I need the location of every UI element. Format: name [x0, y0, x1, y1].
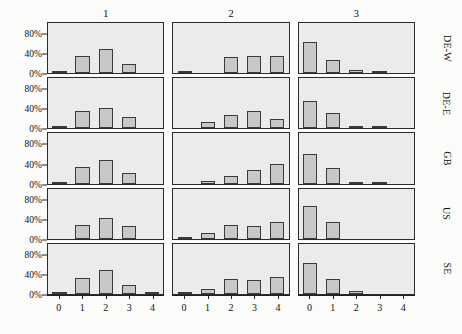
- chart-root: 0%40%80%0%40%80%0%40%80%0%40%80%0%40%80%…: [0, 0, 462, 334]
- bar: [303, 154, 317, 183]
- y-tick-label: 80%: [25, 195, 42, 205]
- bar: [270, 222, 284, 239]
- bar: [303, 263, 317, 294]
- bar: [247, 226, 261, 239]
- x-tick-mark: [309, 295, 310, 299]
- bar: [122, 285, 136, 294]
- bar: [270, 277, 284, 294]
- bar: [247, 56, 261, 74]
- x-tick-label: 3: [377, 302, 382, 313]
- plot-area: [299, 78, 414, 128]
- panel-grid: [47, 22, 415, 295]
- row-strip-text: GB: [441, 151, 452, 165]
- y-tick-label: 80%: [25, 84, 42, 94]
- x-tick-label: 3: [127, 302, 132, 313]
- bar: [122, 173, 136, 184]
- row-strip-label-US: US: [432, 188, 462, 240]
- bar: [247, 170, 261, 184]
- y-tick-label: 0%: [29, 69, 42, 79]
- x-tick-label: 2: [103, 302, 108, 313]
- panel-DE-W-3: [298, 22, 415, 74]
- bar: [52, 292, 66, 294]
- column-strip-label-1: 1: [47, 6, 164, 20]
- panel-US-2: [172, 188, 289, 240]
- x-tick-mark: [254, 295, 255, 299]
- x-tick-mark: [184, 295, 185, 299]
- bar: [99, 160, 113, 184]
- column-strip-label-2: 2: [172, 6, 289, 20]
- plot-area: [173, 189, 288, 239]
- bar: [270, 164, 284, 184]
- panel-SE-2: [172, 243, 289, 295]
- bar: [52, 182, 66, 184]
- bar: [326, 113, 340, 128]
- plot-area: [173, 23, 288, 73]
- x-tick-mark: [278, 295, 279, 299]
- bar: [303, 101, 317, 129]
- row-strip-text: US: [442, 207, 453, 220]
- bar: [224, 225, 238, 239]
- y-tick-label: 80%: [25, 29, 42, 39]
- x-tick-mark: [356, 295, 357, 299]
- bar: [326, 222, 340, 239]
- x-tick-mark: [231, 295, 232, 299]
- x-tick-label: 2: [229, 302, 234, 313]
- panel-US-1: [47, 188, 164, 240]
- y-tick-label: 40%: [25, 49, 42, 59]
- bar: [224, 279, 238, 294]
- bar: [75, 225, 89, 239]
- row-strip-label-SE: SE: [432, 243, 462, 295]
- bar: [201, 289, 215, 294]
- y-tick-label: 0%: [29, 235, 42, 245]
- bar: [372, 182, 386, 184]
- bar: [201, 181, 215, 184]
- x-tick-mark: [82, 295, 83, 299]
- x-tick-label: 1: [80, 302, 85, 313]
- bar: [99, 218, 113, 239]
- bar: [270, 119, 284, 128]
- plot-area: [48, 78, 163, 128]
- bar: [52, 126, 66, 128]
- y-tick-label: 0%: [29, 124, 42, 134]
- bar: [178, 292, 192, 294]
- y-tick-label: 40%: [25, 270, 42, 280]
- bar: [303, 42, 317, 74]
- column-strip-label-3: 3: [298, 6, 415, 20]
- y-tick-label: 40%: [25, 215, 42, 225]
- x-tick-mark: [333, 295, 334, 299]
- x-tick-mark: [129, 295, 130, 299]
- x-tick-label: 1: [205, 302, 210, 313]
- row-strip-text: DE-W: [442, 35, 453, 62]
- x-tick-mark: [106, 295, 107, 299]
- bar: [349, 70, 363, 73]
- bar: [75, 111, 89, 129]
- bar: [99, 270, 113, 294]
- bar: [122, 117, 136, 128]
- bar: [372, 126, 386, 128]
- bar: [326, 279, 340, 294]
- x-tick-label: 0: [307, 302, 312, 313]
- bar: [99, 108, 113, 128]
- y-tick-label: 40%: [25, 104, 42, 114]
- x-tick-label: 0: [182, 302, 187, 313]
- y-tick-label: 40%: [25, 160, 42, 170]
- panel-DE-W-2: [172, 22, 289, 74]
- bar: [303, 206, 317, 239]
- bar: [247, 111, 261, 129]
- x-tick-mark: [59, 295, 60, 299]
- bar: [75, 167, 89, 184]
- y-tick-label: 0%: [29, 290, 42, 300]
- bar: [270, 56, 284, 74]
- panel-SE-1: [47, 243, 164, 295]
- row-strip-text: DE-E: [441, 91, 452, 115]
- plot-area: [173, 244, 288, 294]
- x-tick-label: 4: [150, 302, 155, 313]
- bar: [201, 233, 215, 239]
- plot-area: [173, 78, 288, 128]
- bar: [247, 280, 261, 294]
- plot-area: [299, 23, 414, 73]
- x-tick-label: 4: [401, 302, 406, 313]
- plot-area: [173, 133, 288, 183]
- row-strip-label-GB: GB: [432, 132, 462, 184]
- panel-GB-1: [47, 132, 164, 184]
